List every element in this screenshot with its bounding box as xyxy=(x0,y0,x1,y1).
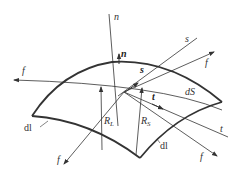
dl-left-leader xyxy=(40,121,48,127)
s-vector-label: s xyxy=(139,64,144,75)
surface-element xyxy=(32,62,222,158)
n-axis-label: n xyxy=(114,11,119,22)
surface-right-edge xyxy=(140,102,222,158)
n-vector-label: n xyxy=(121,48,127,59)
t-vector-arrow xyxy=(152,104,163,109)
f-left-label: f xyxy=(22,65,26,76)
f-bottom-right-label: f xyxy=(200,151,204,162)
RS-label: RS xyxy=(140,115,151,128)
f-bottom-left-arrow xyxy=(64,92,124,164)
s-axis-label: s xyxy=(185,33,189,44)
surface-tension-diagram: n n s s f f t t f f dS dl dl RL RS xyxy=(0,0,240,172)
dl-right-label: dl xyxy=(160,140,168,151)
f-bottom-left-label: f xyxy=(57,154,61,165)
f-bottom-right-arrow xyxy=(124,92,217,156)
f-top-right-label: f xyxy=(205,57,209,68)
radius-RL-arrow xyxy=(101,87,102,150)
RL-label: RL xyxy=(103,115,114,128)
dl-left-label: dl xyxy=(24,122,32,133)
t-axis-label: t xyxy=(220,123,223,134)
dS-label: dS xyxy=(185,86,195,97)
normal-axis-line xyxy=(109,14,118,126)
t-vector-label: t xyxy=(152,91,156,102)
